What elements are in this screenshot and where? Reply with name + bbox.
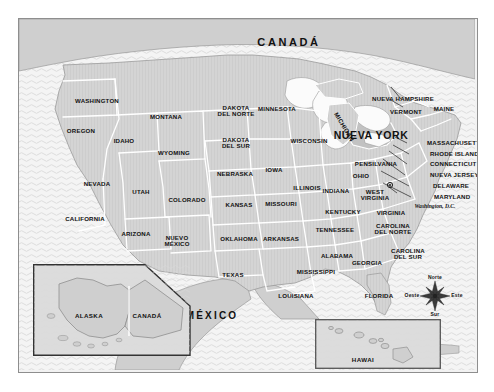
compass-label-north: Norte (428, 275, 442, 280)
state-label-connecticut: CONNECTICUT (430, 161, 477, 167)
state-label-west-virginia: WEST VIRGINIA (361, 189, 390, 201)
state-label-florida: FLORIDA (365, 293, 393, 299)
state-label-iowa: IOWA (265, 167, 282, 173)
compass-label-south: Sur (431, 312, 440, 317)
state-label-carolina-del-sur: CAROLINA DEL SUR (391, 248, 425, 260)
state-label-colorado: COLORADO (168, 197, 205, 203)
state-label-pensilvania: PENSILVANIA (355, 161, 397, 167)
state-label-vermont: VERMONT (390, 109, 422, 115)
state-label-ohio: OHIO (353, 173, 369, 179)
state-label-missouri: MISSOURI (265, 201, 297, 207)
state-label-illinois: ILLINOIS (293, 185, 320, 191)
inset-hawaii-graphic (315, 319, 441, 369)
state-label-dakota-del-norte: DAKOTA DEL NORTE (218, 105, 255, 117)
state-label-maine: MAINE (434, 106, 455, 112)
state-label-wyoming: WYOMING (158, 150, 190, 156)
state-label-maryland: MARYLAND (434, 194, 470, 200)
inset-label-canada: CANADÁ (132, 313, 161, 319)
inset-label-hawai: HAWAI (352, 357, 374, 363)
compass-label-west: Oeste (405, 293, 420, 298)
state-label-georgia: GEORGIA (352, 260, 382, 266)
state-label-carolina-del-norte: CAROLINA DEL NORTE (375, 223, 412, 235)
state-label-kentucky: KENTUCKY (325, 209, 360, 215)
inset-hawaii: HAWAI (315, 319, 441, 369)
state-label-rhode-island: RHODE ISLAND (430, 151, 478, 157)
state-label-california: CALIFORNIA (65, 216, 105, 222)
capital-label-washington-dc: Washington, D.C. (415, 204, 456, 210)
inset-alaska: ALASKACANADÁ (33, 264, 191, 356)
state-label-utah: UTAH (132, 189, 149, 195)
state-label-oklahoma: OKLAHOMA (220, 236, 257, 242)
state-label-texas: TEXAS (222, 272, 243, 278)
state-label-nueva-hampshire: NUEVA HAMPSHIRE (372, 96, 434, 102)
state-label-indiana: INDIANA (323, 188, 350, 194)
state-label-dakota-del-sur: DAKOTA DEL SUR (222, 137, 250, 149)
state-label-kansas: KANSAS (226, 202, 253, 208)
state-label-nevada: NEVADA (84, 181, 110, 187)
inset-label-alaska: ALASKA (75, 313, 103, 319)
state-label-nebraska: NEBRASKA (217, 171, 253, 177)
state-label-nueva-jersey: NUEVA JERSEY (430, 172, 478, 178)
state-label-washington: WASHINGTON (75, 98, 119, 104)
inset-alaska-graphic (33, 264, 191, 356)
state-label-arizona: ARIZONA (121, 231, 150, 237)
country-label-canada: CANADÁ (257, 37, 320, 48)
state-label-oregon: OREGON (67, 128, 95, 134)
state-label-idaho: IDAHO (114, 138, 135, 144)
state-label-mississippi: MISSISSIPPI (297, 269, 335, 275)
state-label-virginia: VIRGINIA (377, 210, 406, 216)
state-label-louisiana: LOUISIANA (278, 293, 313, 299)
map-frame: WASHINGTONOREGONIDAHOMONTANAWYOMINGNEVAD… (18, 18, 478, 373)
state-label-wisconsin: WISCONSIN (290, 138, 327, 144)
state-label-minnesota: MINNESOTA (258, 106, 296, 112)
compass-label-east: Este (451, 293, 462, 298)
state-label-montana: MONTANA (150, 114, 182, 120)
state-label-alabama: ALABAMA (321, 253, 353, 259)
state-label-nueva-york: NUEVA YORK (334, 130, 409, 141)
state-label-nuevo-mexico: NUEVO MÉXICO (164, 235, 189, 247)
map-figure: WASHINGTONOREGONIDAHOMONTANAWYOMINGNEVAD… (0, 0, 494, 392)
country-label-mexico: MÉXICO (186, 311, 239, 321)
state-label-delaware: DELAWARE (433, 183, 469, 189)
state-label-tennessee: TENNESSEE (316, 227, 355, 233)
washington-dc-dot (389, 184, 391, 186)
state-label-arkansas: ARKANSAS (263, 236, 299, 242)
state-label-massachusetts: MASSACHUSETTS (427, 140, 478, 146)
